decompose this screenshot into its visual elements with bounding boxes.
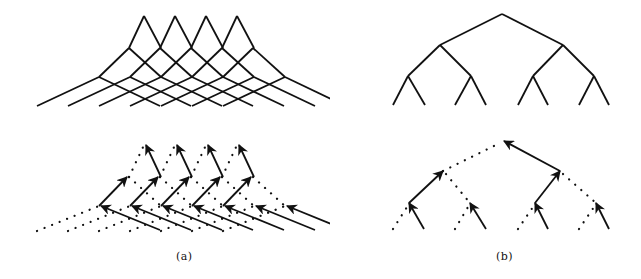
tree-edge — [237, 16, 254, 48]
tree-edge — [175, 16, 192, 48]
arrow-edge — [239, 145, 254, 177]
dotted-edge — [393, 207, 407, 229]
tree-edge — [254, 77, 315, 106]
arrow-edge — [146, 145, 161, 177]
tree-edge — [563, 45, 594, 76]
arrow-edge — [409, 171, 443, 203]
panel-b-label: (b) — [496, 250, 513, 263]
figure: (a) (b) — [0, 0, 641, 279]
tree-edge — [393, 76, 408, 105]
arrow-edge — [256, 206, 315, 230]
tree-edge — [144, 16, 161, 48]
panel-a-label: (a) — [176, 250, 193, 263]
tree-edge — [408, 76, 425, 105]
arrow-edge — [223, 177, 251, 206]
tree-edge — [191, 16, 206, 48]
dotted-edge — [563, 174, 596, 203]
dotted-edge — [446, 174, 470, 203]
tree-edge — [440, 14, 502, 45]
tree-edge — [99, 48, 129, 77]
tree-edge — [471, 76, 486, 105]
arrow-edge — [177, 145, 192, 177]
dotted-edge — [37, 206, 99, 231]
tree-edge — [285, 77, 346, 106]
panel-b-flow — [393, 141, 609, 229]
tree-edge — [594, 76, 609, 105]
arrow-edge — [99, 177, 127, 206]
tree-edge — [455, 76, 471, 105]
tree-edge — [533, 45, 563, 76]
arrow-edge — [535, 203, 548, 229]
dotted-edge — [443, 143, 500, 171]
tree-edge — [408, 45, 440, 76]
panel-a-shifted-trees — [37, 16, 346, 106]
tree-edge — [518, 76, 533, 105]
dotted-edge — [455, 207, 468, 229]
tree-edge — [533, 76, 548, 105]
arrow-edge — [596, 203, 609, 229]
tree-edge — [440, 45, 471, 76]
panel-b-tree — [393, 14, 609, 105]
dotted-edge — [68, 206, 130, 231]
dotted-edge — [160, 145, 175, 177]
tree-edge — [222, 16, 237, 48]
arrow-edge — [208, 145, 223, 177]
tree-edge — [253, 48, 285, 77]
arrow-edge — [504, 141, 560, 171]
dotted-edge — [222, 145, 237, 177]
arrow-edge — [161, 177, 189, 206]
tree-edge — [37, 77, 99, 106]
arrow-edge — [535, 171, 560, 203]
tree-edge — [68, 77, 130, 106]
tree-edge — [129, 16, 144, 48]
dotted-edge — [191, 145, 206, 177]
arrow-edge — [192, 177, 220, 206]
dotted-edge — [518, 207, 533, 229]
arrow-edge — [409, 203, 424, 229]
tree-edge — [206, 16, 223, 48]
tree-edge — [579, 76, 594, 105]
dotted-edge — [253, 177, 285, 206]
dotted-edge — [129, 145, 144, 177]
diagram-canvas — [0, 0, 641, 279]
arrow-edge — [287, 206, 346, 230]
tree-edge — [502, 14, 563, 45]
dotted-edge — [579, 207, 594, 229]
arrow-edge — [470, 203, 486, 229]
tree-edge — [160, 16, 175, 48]
arrow-edge — [130, 177, 158, 206]
panel-a-flow — [37, 145, 346, 231]
